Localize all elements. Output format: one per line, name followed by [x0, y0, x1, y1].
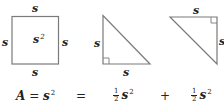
term2-exponent: 2: [207, 88, 211, 96]
equation-term1: 12s2: [113, 88, 134, 103]
square-area-exponent: 2: [40, 33, 44, 41]
square-left-label: s: [2, 37, 8, 48]
square-area-var: s: [33, 33, 39, 46]
triangle-left-bottom-label: s: [123, 67, 129, 78]
square-area-label: s2: [33, 34, 45, 45]
square-right-label: s: [62, 37, 68, 48]
lhs-exponent: 2: [51, 89, 55, 97]
triangle-left-side-label: s: [94, 38, 100, 49]
term1-s: s: [121, 88, 128, 102]
half-fraction-2: 12: [191, 88, 197, 103]
equals-sign-2: =: [76, 90, 86, 102]
fraction-denominator: 2: [113, 96, 119, 103]
square-bottom-label: s: [32, 67, 38, 78]
term2-s: s: [199, 88, 206, 102]
equation-term2: 12s2: [191, 88, 212, 103]
equals-sign-1: =: [29, 89, 39, 103]
lhs-s: s: [43, 89, 50, 103]
half-fraction-1: 12: [113, 88, 119, 103]
right-angle-marker-left: [103, 58, 109, 64]
right-angle-marker-right: [211, 17, 217, 23]
area-decomposition-diagram: s s s s s2 s s s s A = s2 = 12s2 + 12s2: [0, 0, 224, 108]
triangle-right-shape: [170, 17, 217, 64]
triangle-right-side-label: s: [219, 36, 224, 47]
area-variable: A: [16, 89, 25, 103]
triangle-left-shape: [103, 16, 150, 65]
fraction-denominator: 2: [191, 96, 197, 103]
term1-exponent: 2: [129, 88, 133, 96]
triangle-right-top-label: s: [193, 5, 199, 16]
plus-sign: +: [160, 90, 170, 102]
equation-lhs: A = s2: [16, 90, 55, 102]
square-top-label: s: [32, 3, 38, 14]
